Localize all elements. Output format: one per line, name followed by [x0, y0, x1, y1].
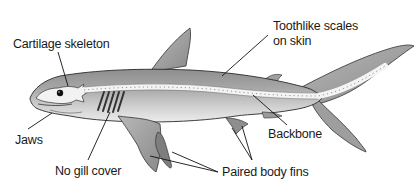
leader-paired-fins-4 — [232, 128, 252, 160]
label-no-gill-cover: No gill cover — [55, 164, 121, 178]
pectoral-fin — [118, 116, 161, 172]
leader-paired-fins-2 — [150, 156, 218, 172]
shark-anatomy-diagram: Cartilage skeleton Toothlike scales on s… — [0, 0, 418, 189]
label-toothlike-scales-line1: Toothlike scales — [273, 19, 358, 33]
dorsal-fin — [150, 28, 191, 72]
label-toothlike-scales-line2: on skin — [273, 34, 311, 48]
label-cartilage-skeleton: Cartilage skeleton — [13, 37, 109, 51]
anal-fin — [262, 112, 282, 118]
leader-toothlike-scales — [222, 35, 268, 76]
label-paired-body-fins: Paired body fins — [222, 165, 308, 179]
pelvic-fin-far — [226, 118, 248, 134]
eye — [57, 90, 63, 96]
leader-jaws — [28, 113, 52, 129]
label-jaws: Jaws — [15, 133, 43, 147]
caudal-fin-lower — [312, 100, 366, 152]
label-backbone: Backbone — [268, 127, 322, 141]
leader-paired-fins-3 — [242, 126, 252, 160]
leader-paired-fins-1 — [172, 152, 218, 172]
